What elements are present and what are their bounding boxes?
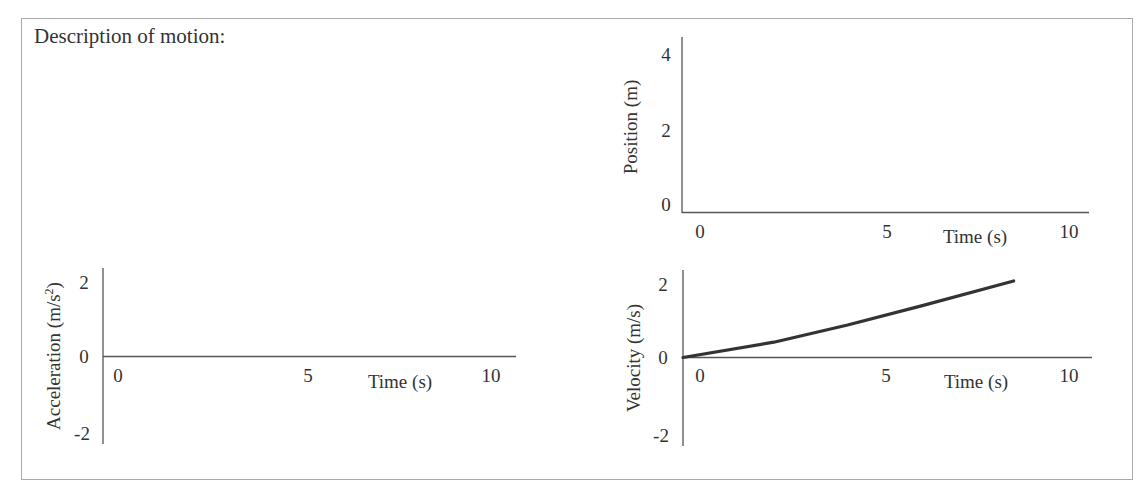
acceleration-ytick-neg2: -2 <box>74 423 90 444</box>
acceleration-ylabel: Acceleration (m/s2) <box>42 282 65 430</box>
position-ytick-4: 4 <box>661 44 671 65</box>
acceleration-xtick-0: 0 <box>113 365 123 386</box>
position-xtick-5: 5 <box>882 221 892 242</box>
position-xlabel: Time (s) <box>943 226 1007 248</box>
velocity-line <box>683 281 1014 358</box>
velocity-ytick-neg2: -2 <box>653 425 669 446</box>
velocity-ylabel: Velocity (m/s) <box>623 304 645 412</box>
velocity-ytick-0: 0 <box>658 347 668 368</box>
acceleration-ytick-2: 2 <box>79 272 89 293</box>
position-ytick-2: 2 <box>661 120 671 141</box>
velocity-xtick-5: 5 <box>881 365 891 386</box>
velocity-xtick-0: 0 <box>695 365 705 386</box>
velocity-ytick-2: 2 <box>658 274 668 295</box>
position-xtick-10: 10 <box>1060 221 1079 242</box>
acceleration-xtick-5: 5 <box>303 365 313 386</box>
velocity-chart: 2 0 -2 0 5 10 Time (s) Velocity (m/s) <box>623 270 1092 446</box>
position-chart: 4 2 0 0 5 10 Time (s) Position (m) <box>620 37 1089 248</box>
motion-graphs: 4 2 0 0 5 10 Time (s) Position (m) 2 0 -… <box>0 0 1145 488</box>
position-ylabel: Position (m) <box>620 80 642 174</box>
position-xtick-0: 0 <box>695 221 705 242</box>
velocity-xtick-10: 10 <box>1060 365 1079 386</box>
velocity-xlabel: Time (s) <box>944 371 1008 393</box>
acceleration-ytick-0: 0 <box>79 346 89 367</box>
acceleration-xtick-10: 10 <box>482 365 501 386</box>
position-ytick-0: 0 <box>661 194 671 215</box>
acceleration-chart: 2 0 -2 0 5 10 Time (s) Acceleration (m/s… <box>42 268 516 444</box>
acceleration-xlabel: Time (s) <box>368 371 432 393</box>
